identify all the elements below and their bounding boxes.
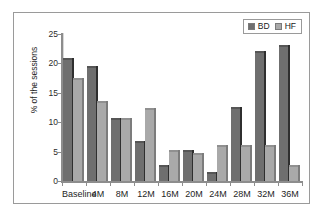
y-tick-label: 15 xyxy=(14,89,58,97)
legend-swatch-hf xyxy=(275,23,282,30)
bar-bd-32m xyxy=(255,53,264,181)
bar-group xyxy=(110,34,134,181)
x-tick-mark xyxy=(110,181,111,186)
bar-hf-4m xyxy=(97,103,106,181)
y-tick-label: 25 xyxy=(14,30,58,38)
plot-area xyxy=(62,34,302,181)
bar-bd-8m xyxy=(111,120,120,181)
x-tick-label: Baseline xyxy=(62,189,86,199)
bar-group xyxy=(230,34,254,181)
y-tick-label: 10 xyxy=(14,118,58,126)
x-tick-mark xyxy=(230,181,231,186)
chart-legend: BD HF xyxy=(243,19,302,34)
bar-bd-36m xyxy=(279,47,288,181)
bar-hf-28m xyxy=(241,147,250,181)
x-tick-mark xyxy=(86,181,87,186)
legend-swatch-bd xyxy=(248,23,255,30)
x-tick-label: 12M xyxy=(134,189,158,199)
bar-bd-4m xyxy=(87,68,96,181)
bar-bd-16m xyxy=(159,167,168,181)
bar-group xyxy=(158,34,182,181)
bar-hf-32m xyxy=(265,147,274,181)
bar-group xyxy=(86,34,110,181)
bar-bd-28m xyxy=(231,109,240,181)
x-tick-label: 20M xyxy=(182,189,206,199)
x-tick-mark xyxy=(134,181,135,186)
bar-hf-baseline xyxy=(73,80,82,181)
bar-bd-20m xyxy=(183,152,192,181)
x-tick-label: 16M xyxy=(158,189,182,199)
x-tick-mark xyxy=(254,181,255,186)
bar-group xyxy=(134,34,158,181)
bar-hf-16m xyxy=(169,152,178,181)
legend-label-hf: HF xyxy=(285,22,296,31)
bar-group xyxy=(278,34,302,181)
y-tick-label: 20 xyxy=(14,59,58,67)
bar-hf-20m xyxy=(193,155,202,181)
x-tick-mark xyxy=(62,181,63,186)
legend-item-hf: HF xyxy=(275,22,296,31)
x-tick-mark xyxy=(182,181,183,186)
x-tick-mark xyxy=(302,181,303,186)
bar-group xyxy=(254,34,278,181)
chart-container: % of the sessions 0510152025 Baseline4M8… xyxy=(13,12,310,204)
bar-hf-12m xyxy=(145,110,154,181)
y-tick-label: 5 xyxy=(14,148,58,156)
bar-bd-baseline xyxy=(63,60,72,181)
x-tick-label: 4M xyxy=(86,189,110,199)
legend-item-bd: BD xyxy=(248,22,270,31)
x-tick-mark xyxy=(278,181,279,186)
bar-hf-24m xyxy=(217,147,226,181)
x-tick-mark xyxy=(158,181,159,186)
legend-label-bd: BD xyxy=(258,22,270,31)
bar-hf-36m xyxy=(289,167,298,181)
x-tick-label: 32M xyxy=(254,189,278,199)
bar-bd-24m xyxy=(207,174,216,181)
y-tick-label: 0 xyxy=(14,177,58,185)
bar-group xyxy=(182,34,206,181)
x-tick-mark xyxy=(206,181,207,186)
x-tick-label: 8M xyxy=(110,189,134,199)
bar-group xyxy=(62,34,86,181)
x-tick-label: 24M xyxy=(206,189,230,199)
bar-bd-12m xyxy=(135,143,144,181)
bar-hf-8m xyxy=(121,120,130,181)
bar-group xyxy=(206,34,230,181)
x-tick-label: 36M xyxy=(278,189,302,199)
x-tick-label: 28M xyxy=(230,189,254,199)
